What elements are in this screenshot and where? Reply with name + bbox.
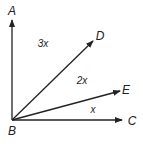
point-label-a: A [7,4,16,18]
angle-label-dbe: 2x [76,75,89,86]
point-label-d: D [96,29,105,43]
diagram-canvas: ADECB3x2xx [0,0,143,144]
point-label-b: B [8,124,16,138]
angle-label-abd: 3x [38,38,50,49]
ray-be [12,91,120,120]
point-label-e: E [122,83,131,97]
angle-label-ebc: x [90,104,97,115]
point-label-c: C [128,114,137,128]
angle-diagram: ADECB3x2xx [0,0,143,144]
